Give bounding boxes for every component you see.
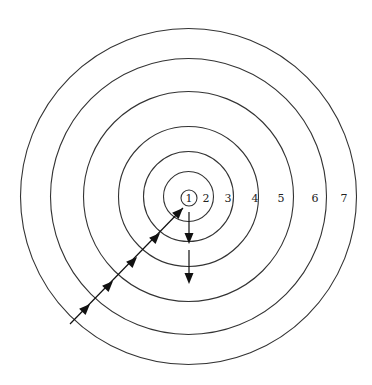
ring-label-5: 5 bbox=[278, 192, 285, 205]
concentric-circles-diagram: 1234567 bbox=[0, 0, 372, 385]
diagonal-arrowhead-icon bbox=[102, 281, 113, 292]
ring-label-7: 7 bbox=[341, 192, 348, 205]
ring-label-6: 6 bbox=[312, 192, 319, 205]
arrows-group bbox=[70, 208, 194, 324]
ring-labels-group: 1234567 bbox=[186, 192, 348, 205]
diagonal-arrowhead-icon bbox=[126, 257, 137, 268]
down-arrowhead-icon bbox=[185, 233, 194, 244]
ring-label-3: 3 bbox=[225, 192, 232, 205]
diagonal-arrowhead-icon bbox=[149, 233, 160, 244]
down-arrowhead-icon bbox=[185, 273, 194, 284]
ring-label-4: 4 bbox=[252, 192, 259, 205]
ring-label-2: 2 bbox=[203, 192, 210, 205]
ring-label-1: 1 bbox=[186, 192, 193, 205]
